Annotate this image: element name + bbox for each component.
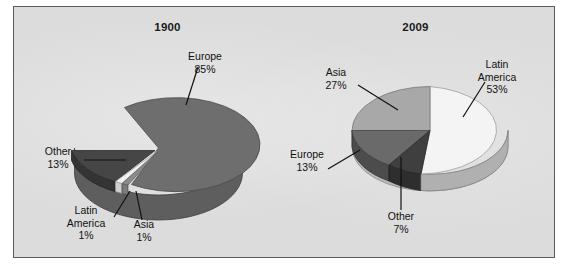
label-asia-1900: Asia 1% <box>127 218 161 243</box>
label-latin-america-2009: Latin America 53% <box>466 58 528 96</box>
chart-panel-1900: 1900 <box>14 7 285 257</box>
label-asia-2009: Asia 27% <box>314 66 358 91</box>
pie-1900-depth-asia <box>122 184 128 196</box>
figure-frame: 1900 <box>13 6 555 258</box>
label-other-2009: Other 7% <box>377 210 425 235</box>
label-latin-america-1900: Latin America 1% <box>58 204 114 242</box>
chart-title-1900: 1900 <box>32 21 303 33</box>
pie-2009-slice-asia <box>352 87 430 131</box>
pie-2009-slice-latin-america <box>421 87 497 175</box>
chart-title-2009: 2009 <box>280 21 551 33</box>
figure-two-pie-charts: 1900 <box>0 0 567 269</box>
label-europe-2009: Europe 13% <box>282 148 332 173</box>
chart-panel-2009: 2009 <box>285 7 556 257</box>
label-europe-1900: Europe 85% <box>177 50 233 75</box>
label-other-1900: Other 13% <box>34 145 82 170</box>
